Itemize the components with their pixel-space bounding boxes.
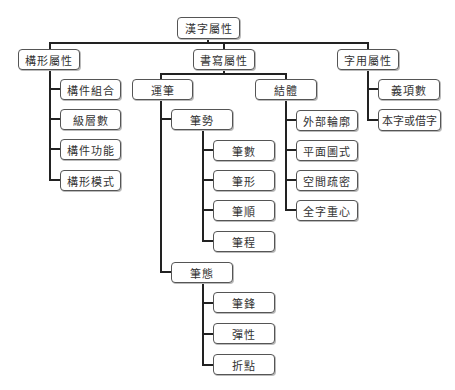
node-writing: 書寫屬性: [193, 49, 255, 70]
node-usage-child: 義項數: [378, 79, 440, 100]
connector: [202, 129, 204, 241]
node-bishi-child: 筆程: [213, 231, 275, 252]
connector: [285, 99, 287, 211]
node-jieti-child: 外部輪廓: [296, 110, 358, 131]
connector: [285, 179, 296, 181]
connector: [223, 42, 225, 49]
connector: [202, 149, 213, 151]
node-jieti-child: 空間疏密: [296, 170, 358, 191]
connector: [49, 69, 51, 181]
connector: [49, 148, 60, 150]
connector: [285, 119, 296, 121]
connector: [49, 42, 51, 49]
connector: [160, 99, 162, 273]
connector: [49, 42, 369, 44]
node-formation: 構形屬性: [18, 49, 80, 70]
node-jieti-child: 平面圖式: [296, 140, 358, 161]
connector: [160, 73, 287, 75]
node-bitai-child: 折點: [213, 354, 275, 375]
node-bitai-child: 彈性: [213, 323, 275, 344]
connector: [367, 88, 378, 90]
node-bishi: 筆勢: [171, 109, 233, 130]
connector: [160, 118, 171, 120]
node-root: 漢字屬性: [177, 17, 240, 39]
connector: [202, 240, 213, 242]
connector: [49, 88, 60, 90]
node-formation-child: 構件組合: [60, 79, 121, 100]
node-formation-child: 構件功能: [60, 139, 121, 160]
node-bitai-child: 筆鋒: [213, 292, 275, 313]
connector: [202, 302, 213, 304]
node-jieti: 結體: [255, 79, 317, 100]
connector: [285, 209, 296, 211]
node-jieti-child: 全字重心: [296, 200, 358, 221]
connector: [367, 69, 369, 120]
node-bishi-child: 筆順: [213, 200, 275, 221]
node-formation-child: 級層數: [60, 109, 121, 130]
connector: [202, 333, 213, 335]
node-bishi-child: 筆形: [213, 170, 275, 191]
node-usage: 字用屬性: [337, 49, 399, 70]
connector: [367, 42, 369, 49]
connector: [202, 364, 213, 366]
connector: [202, 179, 213, 181]
node-bitai: 筆態: [171, 262, 233, 283]
node-usage-child: 本字或借字: [378, 109, 441, 131]
connector: [160, 271, 171, 273]
connector: [49, 179, 60, 181]
connector: [367, 119, 378, 121]
connector: [285, 149, 296, 151]
node-formation-child: 構形模式: [60, 170, 121, 191]
connector: [202, 283, 204, 365]
connector: [202, 209, 213, 211]
node-bishi-child: 筆數: [213, 140, 275, 161]
node-yunbi: 運筆: [132, 79, 193, 100]
connector: [49, 118, 60, 120]
